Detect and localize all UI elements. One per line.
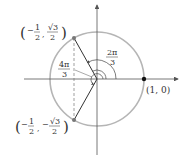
label-angle-4pi-3: 4π 3 bbox=[58, 60, 70, 79]
svg-text:2: 2 bbox=[52, 127, 57, 136]
svg-text:): ) bbox=[61, 24, 67, 42]
svg-text:2: 2 bbox=[29, 127, 34, 136]
radius-lower bbox=[74, 79, 97, 120]
svg-text:(: ( bbox=[20, 24, 26, 42]
svg-text:3: 3 bbox=[110, 58, 115, 67]
svg-text:−: − bbox=[21, 120, 28, 129]
svg-text:−: − bbox=[27, 26, 34, 35]
svg-text:,: , bbox=[42, 30, 45, 39]
svg-text:2π: 2π bbox=[107, 48, 117, 57]
svg-text:2: 2 bbox=[50, 33, 55, 42]
point-upper bbox=[72, 36, 76, 40]
angle-label-pointer bbox=[75, 70, 92, 77]
svg-text:1: 1 bbox=[35, 23, 40, 32]
point-right bbox=[142, 77, 146, 81]
svg-text:√3: √3 bbox=[48, 23, 58, 32]
svg-text:): ) bbox=[63, 118, 69, 136]
svg-text:2: 2 bbox=[35, 33, 40, 42]
label-lower-point: ( − 1 2 , − √3 2 ) bbox=[15, 117, 69, 136]
svg-text:√3: √3 bbox=[50, 117, 60, 126]
label-upper-point: ( − 1 2 , √3 2 ) bbox=[20, 23, 67, 42]
svg-text:(: ( bbox=[15, 118, 21, 136]
point-lower bbox=[72, 118, 76, 122]
label-angle-2pi-3: 2π 3 bbox=[106, 48, 118, 67]
svg-text:1: 1 bbox=[29, 117, 34, 126]
radius-upper bbox=[74, 38, 97, 79]
svg-text:4π: 4π bbox=[59, 60, 69, 69]
label-right-point: (1, 0) bbox=[146, 85, 170, 95]
svg-text:,: , bbox=[37, 124, 40, 133]
svg-text:3: 3 bbox=[62, 70, 67, 79]
unit-circle-diagram: ( − 1 2 , √3 2 ) ( − 1 2 , − √3 2 ) (1, … bbox=[0, 0, 189, 164]
svg-text:−: − bbox=[42, 120, 49, 129]
